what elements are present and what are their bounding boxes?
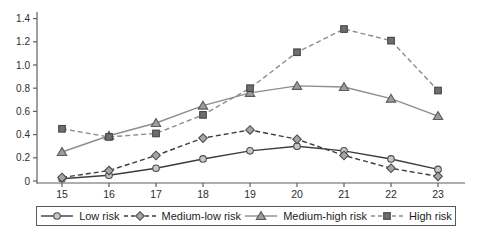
diamond-marker: [293, 135, 302, 144]
square-marker: [106, 134, 113, 141]
circle-marker: [247, 148, 254, 155]
chart-figure: 00.20.40.60.81.01.21.4151617181920212223…: [0, 0, 477, 240]
legend-label-medium-high-risk: Medium-high risk: [283, 211, 367, 222]
x-tick-label: 18: [197, 188, 209, 200]
line-chart: 00.20.40.60.81.01.21.4151617181920212223: [0, 0, 477, 205]
y-tick-label: 0: [24, 176, 30, 187]
circle-marker: [200, 156, 207, 163]
triangle-marker: [151, 119, 160, 127]
square-marker: [200, 112, 207, 119]
legend-item-high-risk: High risk: [370, 210, 452, 222]
diamond-marker: [199, 134, 208, 143]
legend-label-high-risk: High risk: [409, 211, 452, 222]
legend-item-medium-low-risk: Medium-low risk: [123, 210, 241, 222]
legend: Low risk Medium-low risk Medium-high ris…: [36, 206, 456, 226]
y-tick-label: 1.2: [16, 36, 30, 47]
series-low-risk: [59, 143, 442, 182]
y-tick-label: 1.4: [16, 13, 30, 24]
circle-marker: [153, 165, 160, 172]
square-marker: [59, 126, 66, 133]
series-line-high-risk: [62, 29, 438, 137]
square-marker: [247, 85, 254, 92]
diamond-marker: [152, 151, 161, 160]
y-tick-label: 0.2: [16, 152, 30, 163]
medium-high-risk-line-marker-icon: [244, 210, 278, 222]
x-tick-label: 15: [56, 188, 68, 200]
square-marker: [294, 49, 301, 56]
low-risk-line-marker-icon: [40, 210, 74, 222]
medium-low-risk-line-marker-icon: [123, 210, 157, 222]
high-risk-line-marker-icon: [370, 210, 404, 222]
legend-item-low-risk: Low risk: [40, 210, 119, 222]
diamond-marker: [387, 164, 396, 173]
diamond-marker: [246, 126, 255, 135]
diamond-marker: [135, 212, 144, 221]
series-high-risk: [59, 26, 442, 140]
x-tick-label: 19: [244, 188, 256, 200]
x-tick-label: 22: [385, 188, 397, 200]
square-marker: [435, 87, 442, 94]
legend-label-medium-low-risk: Medium-low risk: [162, 211, 241, 222]
circle-marker: [388, 156, 395, 163]
legend-label-low-risk: Low risk: [79, 211, 119, 222]
x-tick-label: 21: [338, 188, 350, 200]
diamond-marker: [434, 172, 443, 181]
square-marker: [384, 213, 391, 220]
x-tick-label: 20: [291, 188, 303, 200]
y-tick-label: 0.4: [16, 129, 30, 140]
x-tick-label: 17: [150, 188, 162, 200]
y-tick-label: 0.6: [16, 106, 30, 117]
y-tick-label: 1.0: [16, 60, 30, 71]
x-tick-label: 16: [103, 188, 115, 200]
legend-item-medium-high-risk: Medium-high risk: [244, 210, 367, 222]
square-marker: [153, 130, 160, 137]
y-tick-label: 0.8: [16, 83, 30, 94]
circle-marker: [54, 213, 61, 220]
triangle-marker: [433, 112, 442, 120]
square-marker: [341, 26, 348, 33]
x-tick-label: 23: [432, 188, 444, 200]
square-marker: [388, 37, 395, 44]
series-medium-high-risk: [57, 81, 442, 155]
